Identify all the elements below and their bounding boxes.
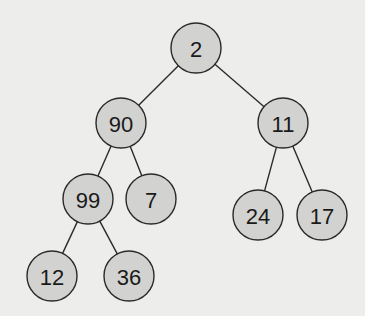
edge-99-12 (63, 222, 78, 254)
edge-90-99 (98, 146, 111, 176)
edge-11-17 (293, 146, 312, 192)
node-label: 90 (109, 112, 133, 137)
node-label: 11 (272, 112, 295, 137)
tree-node-2: 2 (171, 23, 221, 73)
tree-node-17: 17 (297, 190, 347, 240)
node-label: 99 (76, 188, 100, 213)
tree-node-99: 99 (63, 174, 113, 224)
node-label: 7 (145, 188, 157, 213)
node-label: 12 (40, 265, 64, 290)
edge-11-24 (265, 147, 277, 191)
edge-99-36 (100, 221, 118, 254)
tree-node-7: 7 (126, 174, 176, 224)
node-label: 24 (246, 204, 270, 229)
tree-node-24: 24 (233, 190, 283, 240)
edge-2-11 (215, 64, 264, 106)
tree-svg: 2901199724171236 (0, 0, 365, 316)
tree-node-11: 11 (258, 98, 308, 148)
node-label: 36 (117, 265, 141, 290)
tree-node-36: 36 (104, 251, 154, 301)
edge-90-7 (130, 146, 142, 175)
node-label: 2 (190, 37, 202, 62)
node-label: 17 (310, 204, 334, 229)
edge-2-90 (139, 66, 179, 106)
tree-diagram: 2901199724171236 (0, 0, 365, 316)
tree-node-12: 12 (27, 251, 77, 301)
tree-node-90: 90 (96, 98, 146, 148)
